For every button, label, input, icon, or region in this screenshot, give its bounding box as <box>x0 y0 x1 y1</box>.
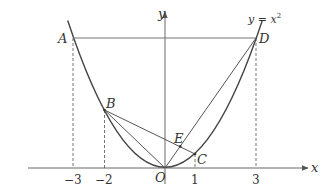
point-C <box>194 153 197 156</box>
curve-equation-label: y = x2 <box>247 12 281 26</box>
label-B: B <box>105 96 116 111</box>
label-A: A <box>57 31 67 46</box>
label-D: D <box>258 31 270 46</box>
tick-label-minus-2: −2 <box>95 173 113 187</box>
segment-OD <box>165 38 256 168</box>
label-O: O <box>155 170 166 185</box>
label-y-axis: y <box>157 6 166 21</box>
tick-label-1: 1 <box>191 173 199 187</box>
parabola-diagram: A D B C E O y x −3 −2 1 3 y = x2 <box>0 0 330 194</box>
tick-label-minus-3: −3 <box>64 173 82 187</box>
equation-exponent: 2 <box>277 12 281 20</box>
label-C: C <box>197 152 207 167</box>
label-x-axis: x <box>311 160 319 175</box>
equation-main: y = x <box>247 13 277 26</box>
segment-BO <box>105 110 166 168</box>
tick-label-3: 3 <box>252 173 260 187</box>
label-E: E <box>173 131 184 146</box>
